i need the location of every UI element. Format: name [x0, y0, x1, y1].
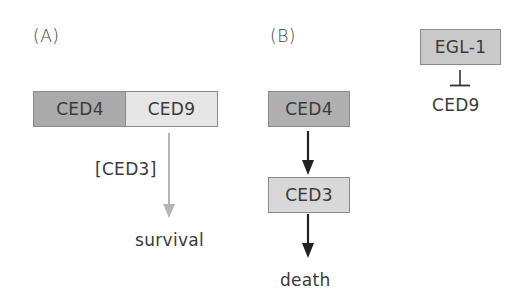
inhibition-bar-icon — [450, 70, 470, 86]
survival-arrow-icon — [163, 133, 175, 218]
connectors — [0, 0, 532, 302]
ced4-to-ced3-arrow-icon — [302, 131, 314, 175]
ced3-to-death-arrow-icon — [302, 214, 314, 258]
